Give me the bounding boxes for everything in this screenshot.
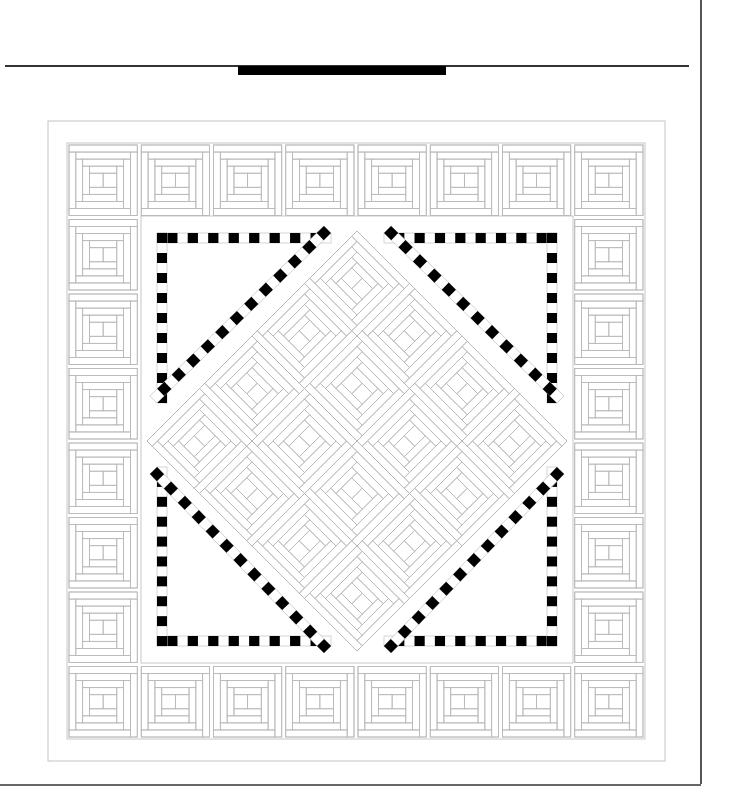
log-cabin-block xyxy=(214,145,282,216)
checker-triangle-bottom-left xyxy=(150,467,331,653)
log-cabin-block xyxy=(286,145,354,216)
log-cabin-block xyxy=(575,518,643,589)
log-cabin-block xyxy=(69,667,137,738)
log-cabin-block xyxy=(69,518,137,589)
log-cabin-block xyxy=(358,145,426,216)
log-cabin-block xyxy=(69,294,137,365)
center-diamond xyxy=(147,231,567,651)
log-cabin-block xyxy=(430,145,498,216)
log-cabin-block xyxy=(69,443,137,514)
log-cabin-block xyxy=(503,145,571,216)
log-cabin-block xyxy=(69,592,137,663)
log-cabin-block xyxy=(575,592,643,663)
log-cabin-block xyxy=(214,667,282,738)
log-cabin-block xyxy=(575,294,643,365)
log-cabin-block xyxy=(69,220,137,291)
pattern-page xyxy=(0,0,732,811)
log-cabin-block xyxy=(141,145,209,216)
log-cabin-block xyxy=(575,369,643,440)
log-cabin-block xyxy=(575,667,643,738)
log-cabin-block xyxy=(575,220,643,291)
log-cabin-block xyxy=(430,667,498,738)
log-cabin-block xyxy=(141,667,209,738)
quilt-diagram xyxy=(0,0,732,811)
log-cabin-block xyxy=(503,667,571,738)
log-cabin-block xyxy=(286,667,354,738)
log-cabin-block xyxy=(69,145,137,216)
log-cabin-block xyxy=(69,369,137,440)
log-cabin-block xyxy=(575,145,643,216)
log-cabin-block xyxy=(575,443,643,514)
checker-triangle-top-left xyxy=(150,226,331,403)
log-cabin-block xyxy=(358,667,426,738)
